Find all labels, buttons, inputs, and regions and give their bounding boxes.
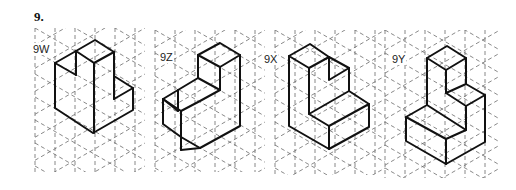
figure-label-9x: 9X [263,53,278,65]
figure-label-9y: 9Y [391,53,406,65]
shape-9w [55,40,133,133]
isometric-shapes [0,0,516,190]
shape-9z [163,43,240,150]
shape-9y [406,46,485,164]
isometric-worksheet: 9. 9W 9Z 9X 9Y [0,0,516,190]
figure-label-9z: 9Z [159,51,174,63]
shape-9x [289,44,369,149]
figure-label-9w: 9W [32,43,51,55]
